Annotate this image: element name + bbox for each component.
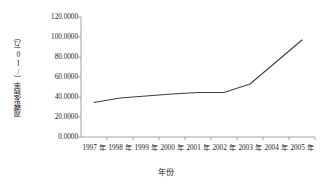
line-chart: 观察发病率（/10万） 120.0000 100.0000 80.0000 60… <box>0 0 331 189</box>
x-tick-label: 2005 年 <box>290 142 313 152</box>
x-axis-title: 年份 <box>0 166 331 177</box>
x-tick-label: 2000 年 <box>160 142 183 152</box>
x-tick-label: 2002 年 <box>212 142 235 152</box>
x-tick-label: 2001 年 <box>186 142 209 152</box>
x-tick-label: 2003 年 <box>238 142 261 152</box>
x-tick-label: 2004 年 <box>264 142 287 152</box>
x-tick-label: 1999 年 <box>134 142 157 152</box>
data-series-line <box>94 40 302 103</box>
x-tick-label: 1997 年 <box>82 142 105 152</box>
x-tick-label: 1998 年 <box>108 142 131 152</box>
plot-area <box>0 0 331 189</box>
